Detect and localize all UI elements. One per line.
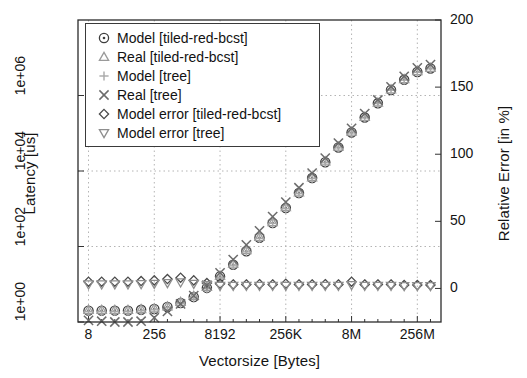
- x-axis-title: Vectorsize [Bytes]: [78, 352, 441, 369]
- y-axis-title-right: Relative Error [in %]: [495, 84, 512, 264]
- y-tick-label-right: 0: [450, 279, 496, 295]
- legend-label: Model error [tiled-red-bcst]: [117, 107, 281, 121]
- plus-icon: [91, 68, 117, 84]
- legend-entry: Real [tiled-red-bcst]: [91, 47, 314, 66]
- y-tick-label-left: 1e+02: [10, 207, 30, 287]
- y-tick-label-left: 1e+00: [10, 282, 30, 362]
- y-tick-label-left: 1e+06: [10, 56, 30, 136]
- chart-legend: Model [tiled-red-bcst]Real [tiled-red-bc…: [85, 23, 320, 147]
- y-tick-label-right: 50: [450, 212, 496, 228]
- diamond-icon: [91, 106, 117, 122]
- y-tick-label-right: 100: [450, 145, 496, 161]
- x-tick-label: 256M: [377, 326, 457, 342]
- circle-dot-icon: [91, 30, 117, 46]
- y-tick-label-right: 200: [450, 11, 496, 27]
- legend-label: Model [tree]: [117, 69, 191, 83]
- triangle-down-icon: [91, 125, 117, 141]
- legend-entry: Model [tiled-red-bcst]: [91, 28, 314, 47]
- legend-label: Model error [tree]: [117, 126, 224, 140]
- triangle-up-icon: [91, 49, 117, 65]
- legend-label: Real [tiled-red-bcst]: [117, 50, 238, 64]
- legend-entry: Real [tree]: [91, 85, 314, 104]
- legend-entry: Model error [tiled-red-bcst]: [91, 104, 314, 123]
- chart-figure: Latency [us] Relative Error [in %] Vecto…: [0, 0, 527, 378]
- y-tick-label-right: 150: [450, 78, 496, 94]
- cross-icon: [91, 87, 117, 103]
- legend-label: Real [tree]: [117, 88, 182, 102]
- y-tick-label-left: 1e+04: [10, 131, 30, 211]
- legend-entry: Model error [tree]: [91, 123, 314, 142]
- legend-entry: Model [tree]: [91, 66, 314, 85]
- legend-label: Model [tiled-red-bcst]: [117, 31, 248, 45]
